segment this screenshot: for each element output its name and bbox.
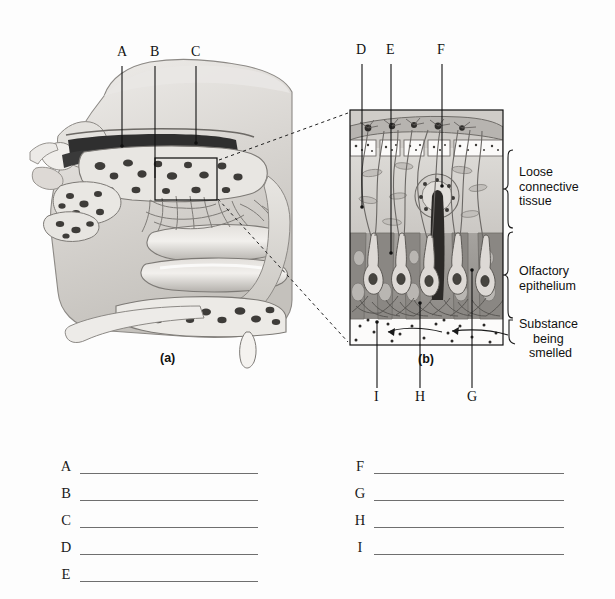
answer-letter-B: B: [58, 486, 74, 501]
answer-row-G[interactable]: G: [352, 479, 567, 501]
answer-line-F[interactable]: [374, 459, 564, 474]
label-H: H: [415, 390, 425, 404]
figure-artwork: [0, 0, 615, 440]
superior-turbinate: [147, 225, 286, 262]
loose-line-3: tissue: [519, 194, 552, 208]
olfaction-figure: A B C D E F I H G (a) (b) Loose connecti…: [0, 0, 615, 440]
sub-line-2: being: [519, 332, 564, 347]
bracket-substance-being-smelled: [509, 320, 515, 344]
panel-a-caption: (a): [160, 351, 175, 365]
label-B: B: [150, 45, 159, 59]
label-A: A: [117, 45, 127, 59]
label-D: D: [356, 43, 366, 57]
label-F: F: [437, 43, 445, 57]
answer-letter-I: I: [352, 540, 368, 555]
answer-letter-D: D: [58, 540, 74, 555]
answer-line-B[interactable]: [80, 486, 258, 501]
answer-row-C[interactable]: C: [58, 506, 258, 528]
label-C: C: [191, 45, 200, 59]
answer-line-D[interactable]: [80, 540, 258, 555]
panel-a-sagittal-section: [30, 59, 348, 368]
answer-row-I[interactable]: I: [352, 533, 567, 555]
answer-letter-A: A: [58, 459, 74, 474]
bracket-label-loose-connective-tissue: Loose connective tissue: [519, 165, 579, 209]
label-E: E: [386, 43, 395, 57]
worksheet-page: A B C D E F I H G (a) (b) Loose connecti…: [0, 0, 615, 599]
loose-line-2: connective: [519, 180, 579, 194]
answer-letter-E: E: [58, 567, 74, 582]
olf-line-2: epithelium: [519, 279, 576, 293]
label-I: I: [374, 390, 379, 404]
answer-line-A[interactable]: [80, 459, 258, 474]
answer-row-A[interactable]: A: [58, 452, 258, 474]
answer-blanks-section: A B C D E F G H: [0, 440, 615, 599]
bracket-label-olfactory-epithelium: Olfactory epithelium: [519, 264, 576, 293]
answer-letter-C: C: [58, 513, 74, 528]
answer-row-D[interactable]: D: [58, 533, 258, 555]
answer-line-G[interactable]: [374, 486, 564, 501]
answer-line-C[interactable]: [80, 513, 258, 528]
bracket-loose-connective-tissue: [503, 150, 513, 228]
sub-line-3: smelled: [519, 346, 572, 361]
bracket-olfactory-epithelium: [503, 232, 513, 318]
answer-row-B[interactable]: B: [58, 479, 258, 501]
olf-line-1: Olfactory: [519, 264, 569, 278]
answer-line-I[interactable]: [374, 540, 564, 555]
panel-b-caption: (b): [418, 352, 434, 366]
loose-line-1: Loose: [519, 165, 553, 179]
answer-line-H[interactable]: [374, 513, 564, 528]
answer-row-E[interactable]: E: [58, 560, 258, 582]
answer-row-H[interactable]: H: [352, 506, 567, 528]
answer-row-F[interactable]: F: [352, 452, 567, 474]
bracket-label-substance-being-smelled: Substance being smelled: [519, 317, 578, 361]
panel-b-epithelium-detail: [350, 64, 515, 388]
answer-letter-F: F: [352, 459, 368, 474]
sub-line-1: Substance: [519, 317, 578, 331]
label-G: G: [467, 390, 477, 404]
answer-letter-G: G: [352, 486, 368, 501]
answer-letter-H: H: [352, 513, 368, 528]
answer-line-E[interactable]: [80, 567, 258, 582]
